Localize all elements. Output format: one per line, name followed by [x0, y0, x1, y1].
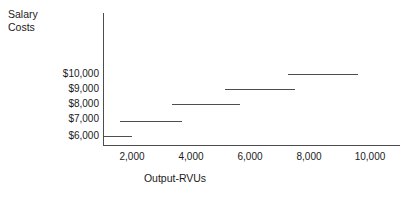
x-axis-title: Output-RVUs [144, 172, 206, 184]
x-tick-label-10000: 10,000 [355, 152, 386, 162]
plot-area: $10,000 $9,000 $8,000 $7,000 $6,000 2,00… [0, 0, 402, 197]
chart-figure: Salary Costs $10,000 $9,000 $8,000 $7,00… [0, 0, 402, 197]
x-tick-label-8000: 8,000 [296, 152, 321, 162]
x-tick-label-2000: 2,000 [119, 152, 144, 162]
x-tick-label-6000: 6,000 [237, 152, 262, 162]
x-axis-tick-labels: 2,000 4,000 6,000 8,000 10,000 [0, 0, 402, 197]
x-tick-label-4000: 4,000 [178, 152, 203, 162]
